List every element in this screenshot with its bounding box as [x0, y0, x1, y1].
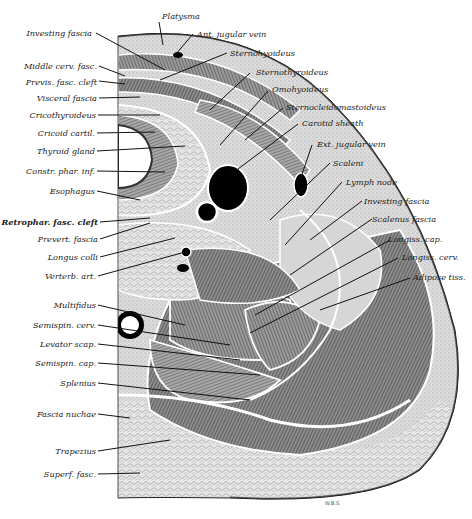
label-splenius: Splenius [60, 378, 96, 388]
label-longiss-cap: Longiss. cap. [388, 234, 442, 244]
label-lymph-node: Lymph node [346, 177, 397, 187]
label-investing-fascia-right: Investing fascia [364, 196, 429, 206]
label-constr-phar-inf: Constr. phar. inf. [26, 166, 95, 176]
label-investing-fascia-left: Investing fascia [27, 28, 92, 38]
label-sternocleidomastoideus: Sternocleidomastoideus [286, 102, 386, 112]
label-ant-jugular-vein: Ant. jugular vein [197, 29, 266, 39]
label-retrophar-fasc-cleft: Retrophar. fasc. cleft [1, 217, 98, 227]
label-visceral-fascia: Visceral fascia [37, 93, 97, 103]
label-superf-fasc: Superf. fasc. [44, 469, 96, 479]
label-longiss-cerv: Longiss. cerv. [402, 252, 459, 262]
label-longus-colli: Longus colli [48, 252, 98, 262]
label-omohyoideus: Omohyoideus [272, 84, 328, 94]
artist-signature: W.B.S. [325, 500, 341, 506]
label-semispin-cap: Semispin. cap. [35, 358, 96, 368]
label-multifidus: Multifidus [54, 300, 96, 310]
label-ext-jugular-vein: Ext. jugular vein [317, 139, 386, 149]
label-trapezius: Trapezius [55, 446, 96, 456]
label-scalenus-fascia: Scalenus fascia [372, 214, 436, 224]
label-cricothyroideus: Cricothyroideus [29, 110, 96, 120]
label-sternothyroideus: Sternothyroideus [256, 67, 328, 77]
label-sternohyoideus: Sternohyoideus [230, 48, 295, 58]
label-carotid-sheath: Carotid sheath [302, 118, 364, 128]
label-previs-fasc-cleft: Previs. fasc. cleft [26, 77, 97, 87]
label-thyroid-gland: Thyroid gland [37, 146, 95, 156]
label-platysma: Platysma [162, 11, 200, 21]
label-cricoid-cartil: Cricoid cartil. [38, 128, 95, 138]
label-verterb-art: Verterb. art. [45, 271, 96, 281]
label-semispin-cerv: Semispin. cerv. [33, 320, 96, 330]
label-levator-scap: Levator scap. [40, 339, 96, 349]
label-middle-cerv-fasc: Middle cerv. fasc. [24, 61, 97, 71]
label-adipose-tiss: Adipose tiss. [413, 272, 466, 282]
label-fascia-nuchae: Fascia nuchae [37, 409, 96, 419]
label-scaleni: Scaleni [333, 158, 363, 168]
label-prevert-fascia: Prevert. fascia [38, 234, 98, 244]
label-esophagus: Esophagus [50, 186, 95, 196]
